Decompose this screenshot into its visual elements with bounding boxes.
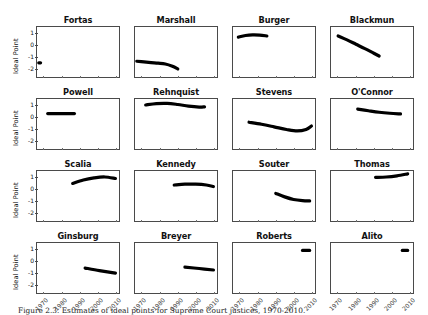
x-tick-mark bbox=[160, 148, 161, 150]
panel-burger: Burger bbox=[232, 26, 316, 78]
x-tick-mark bbox=[141, 292, 142, 294]
x-tick-mark bbox=[410, 76, 411, 78]
plot-area bbox=[36, 170, 120, 222]
x-tick-mark bbox=[294, 148, 295, 150]
y-tick-mark bbox=[35, 141, 38, 142]
panel-title: Rehnquist bbox=[134, 87, 218, 97]
y-tick-mark bbox=[35, 249, 38, 250]
y-tick-mark bbox=[35, 57, 38, 58]
y-tick-mark bbox=[35, 189, 38, 190]
x-tick-mark bbox=[374, 292, 375, 294]
y-tick-mark bbox=[35, 177, 38, 178]
x-tick-mark bbox=[116, 148, 117, 150]
ideal-point-line bbox=[174, 184, 213, 186]
x-tick-mark bbox=[312, 76, 313, 78]
x-tick-mark bbox=[214, 148, 215, 150]
panel-title: Alito bbox=[330, 231, 414, 241]
panel-scalia: Scalia bbox=[36, 170, 120, 222]
x-tick-mark bbox=[98, 76, 99, 78]
x-tick-mark bbox=[98, 148, 99, 150]
y-tick-label: -1 bbox=[28, 270, 34, 276]
plot-area bbox=[36, 98, 120, 150]
x-tick-mark bbox=[392, 148, 393, 150]
ideal-point-line bbox=[338, 36, 379, 56]
panel-title: Burger bbox=[232, 15, 316, 25]
x-tick-mark bbox=[356, 148, 357, 150]
x-tick-mark bbox=[337, 76, 338, 78]
x-tick-mark bbox=[392, 292, 393, 294]
panel-title: Powell bbox=[36, 87, 120, 97]
y-axis: 10-1-2 bbox=[21, 242, 35, 294]
x-tick-mark bbox=[43, 292, 44, 294]
x-tick-mark bbox=[116, 220, 117, 222]
x-tick-mark bbox=[178, 148, 179, 150]
plot-area bbox=[134, 242, 218, 294]
panel-ginsburg: Ginsburg bbox=[36, 242, 120, 294]
x-tick-mark bbox=[178, 76, 179, 78]
y-tick-label: -1 bbox=[28, 126, 34, 132]
panel-blackmun: Blackmun bbox=[330, 26, 414, 78]
x-tick-mark bbox=[374, 76, 375, 78]
panel-title: Ginsburg bbox=[36, 231, 120, 241]
x-tick-mark bbox=[141, 148, 142, 150]
x-tick-mark bbox=[62, 148, 63, 150]
x-tick-mark bbox=[374, 148, 375, 150]
x-tick-mark bbox=[62, 76, 63, 78]
plot-area bbox=[232, 170, 316, 222]
x-tick-mark bbox=[239, 148, 240, 150]
y-tick-label: -2 bbox=[28, 138, 34, 144]
panel-title: Marshall bbox=[134, 15, 218, 25]
panel-kennedy: Kennedy bbox=[134, 170, 218, 222]
x-tick-mark bbox=[43, 76, 44, 78]
x-tick-mark bbox=[214, 292, 215, 294]
x-tick-mark bbox=[258, 220, 259, 222]
figure-caption: Figure 2.3. Estimates of ideal points fo… bbox=[18, 306, 418, 315]
y-tick-label: 0 bbox=[30, 42, 34, 48]
y-tick-label: -2 bbox=[28, 66, 34, 72]
x-tick-mark bbox=[239, 220, 240, 222]
panel-alito: Alito bbox=[330, 242, 414, 294]
ideal-point-line bbox=[376, 174, 408, 177]
x-tick-mark bbox=[374, 220, 375, 222]
y-tick-mark bbox=[35, 45, 38, 46]
x-tick-mark bbox=[276, 292, 277, 294]
y-tick-mark bbox=[35, 129, 38, 130]
panel-souter: Souter bbox=[232, 170, 316, 222]
x-tick-mark bbox=[160, 292, 161, 294]
x-tick-mark bbox=[141, 220, 142, 222]
panel-roberts: Roberts bbox=[232, 242, 316, 294]
plot-area bbox=[134, 98, 218, 150]
plot-area bbox=[36, 26, 120, 78]
x-tick-mark bbox=[276, 76, 277, 78]
x-tick-mark bbox=[43, 220, 44, 222]
y-axis-label: Ideal Point bbox=[12, 110, 20, 146]
x-tick-mark bbox=[98, 220, 99, 222]
y-axis-label: Ideal Point bbox=[12, 38, 20, 74]
x-tick-mark bbox=[410, 220, 411, 222]
ideal-point-line bbox=[137, 61, 178, 69]
panel-title: Breyer bbox=[134, 231, 218, 241]
y-tick-label: -1 bbox=[28, 198, 34, 204]
x-tick-mark bbox=[43, 148, 44, 150]
x-tick-mark bbox=[337, 292, 338, 294]
ideal-point-line bbox=[249, 122, 311, 131]
plot-area bbox=[36, 242, 120, 294]
x-tick-mark bbox=[80, 148, 81, 150]
y-tick-label: 1 bbox=[30, 246, 34, 252]
panel-fortas: Fortas bbox=[36, 26, 120, 78]
ideal-point-line bbox=[146, 103, 205, 107]
x-tick-mark bbox=[80, 76, 81, 78]
plot-area bbox=[330, 170, 414, 222]
x-tick-mark bbox=[392, 220, 393, 222]
panel-title: Scalia bbox=[36, 159, 120, 169]
y-tick-label: 1 bbox=[30, 174, 34, 180]
x-tick-mark bbox=[410, 148, 411, 150]
x-tick-mark bbox=[356, 76, 357, 78]
panel-title: Stevens bbox=[232, 87, 316, 97]
y-tick-mark bbox=[35, 273, 38, 274]
y-tick-mark bbox=[35, 33, 38, 34]
x-tick-mark bbox=[258, 292, 259, 294]
x-tick-mark bbox=[312, 220, 313, 222]
y-tick-mark bbox=[35, 285, 38, 286]
panel-oconnor: O'Connor bbox=[330, 98, 414, 150]
